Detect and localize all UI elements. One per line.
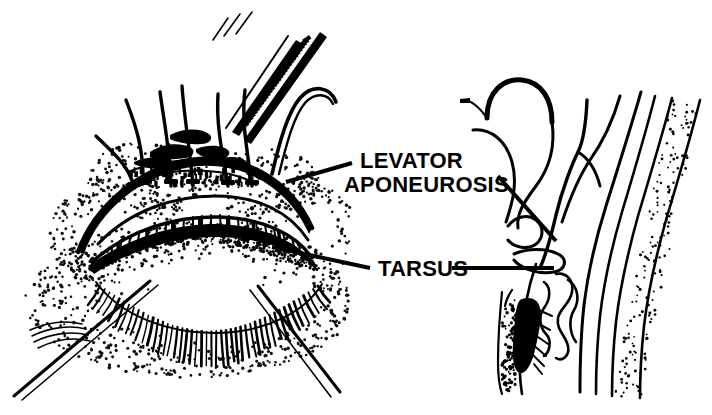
label-levator-line2: APONEUROSIS xyxy=(344,172,509,197)
illustration-canvas: LEVATOR APONEUROSIS TARSUS xyxy=(0,0,712,415)
illustration-figure: LEVATOR APONEUROSIS TARSUS xyxy=(0,0,712,415)
label-tarsus: TARSUS xyxy=(378,256,468,281)
label-levator-line1: LEVATOR xyxy=(360,148,463,173)
